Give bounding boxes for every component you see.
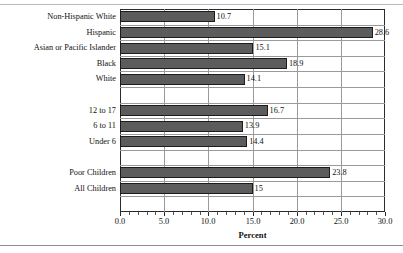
bar-value-label: 15.1 <box>253 40 270 56</box>
x-tick-minor <box>155 212 156 215</box>
bar-value-label: 10.7 <box>215 9 232 25</box>
x-tick-major <box>120 212 121 216</box>
x-tick-minor <box>261 212 262 215</box>
x-axis-title: Percent <box>120 230 385 240</box>
x-tick-major <box>164 212 165 216</box>
x-tick-minor <box>200 212 201 215</box>
x-tick-major <box>208 212 209 216</box>
bar-row-spacer <box>0 196 403 212</box>
category-label: Poor Children <box>0 165 116 181</box>
x-tick-label: 25.0 <box>321 217 361 226</box>
x-tick-label: 20.0 <box>277 217 317 226</box>
bar-row-spacer <box>0 87 403 103</box>
category-label: Non-Hispanic White <box>0 9 116 25</box>
category-label: 12 to 17 <box>0 103 116 119</box>
category-label: White <box>0 71 116 87</box>
bar-chart: Non-Hispanic White10.7Hispanic28.6Asian … <box>0 0 403 253</box>
x-tick-minor <box>376 212 377 215</box>
x-tick-minor <box>279 212 280 215</box>
bar <box>120 121 243 132</box>
x-tick-minor <box>138 212 139 215</box>
x-tick-major <box>297 212 298 216</box>
x-tick-minor <box>270 212 271 215</box>
category-label: Black <box>0 56 116 72</box>
category-label: Hispanic <box>0 25 116 41</box>
x-tick-minor <box>306 212 307 215</box>
bar <box>120 105 268 116</box>
x-tick-minor <box>288 212 289 215</box>
bar <box>120 58 287 69</box>
x-tick-label: 15.0 <box>233 217 273 226</box>
x-tick-minor <box>173 212 174 215</box>
bar-value-label: 28.6 <box>373 25 390 41</box>
bar-row: Under 614.4 <box>0 134 403 150</box>
bar <box>120 136 247 147</box>
x-tick-minor <box>129 212 130 215</box>
bar-row: 6 to 1113.9 <box>0 118 403 134</box>
bar-row-spacer <box>0 150 403 166</box>
bar-row: Hispanic28.6 <box>0 25 403 41</box>
category-label: Under 6 <box>0 134 116 150</box>
bar <box>120 27 373 38</box>
bar-value-label: 14.4 <box>247 134 264 150</box>
bar-row: 12 to 1716.7 <box>0 103 403 119</box>
x-tick-minor <box>350 212 351 215</box>
bar <box>120 43 253 54</box>
bar <box>120 183 253 194</box>
x-tick-major <box>253 212 254 216</box>
bar-row: Asian or Pacific Islander15.1 <box>0 40 403 56</box>
x-tick-label: 10.0 <box>188 217 228 226</box>
bar-value-label: 15 <box>253 181 263 197</box>
x-tick-minor <box>191 212 192 215</box>
bar-value-label: 14.1 <box>245 71 262 87</box>
x-tick-minor <box>235 212 236 215</box>
x-tick-label: 30.0 <box>365 217 403 226</box>
bar <box>120 74 245 85</box>
bar-row: Poor Children23.8 <box>0 165 403 181</box>
bar-value-label: 18.9 <box>287 56 304 72</box>
bar-value-label: 23.8 <box>330 165 347 181</box>
x-tick-minor <box>182 212 183 215</box>
x-tick-minor <box>244 212 245 215</box>
bar-value-label: 13.9 <box>243 118 260 134</box>
x-tick-label: 5.0 <box>144 217 184 226</box>
bar <box>120 167 330 178</box>
x-tick-major <box>341 212 342 216</box>
x-tick-minor <box>367 212 368 215</box>
x-tick-minor <box>147 212 148 215</box>
bar-row: All Children15 <box>0 181 403 197</box>
x-tick-minor <box>314 212 315 215</box>
bar-value-label: 16.7 <box>268 103 285 119</box>
category-label: All Children <box>0 181 116 197</box>
x-tick-minor <box>332 212 333 215</box>
bar-row: White14.1 <box>0 71 403 87</box>
x-tick-major <box>385 212 386 216</box>
x-tick-minor <box>323 212 324 215</box>
bar-row: Non-Hispanic White10.7 <box>0 9 403 25</box>
bar <box>120 11 215 22</box>
x-tick-minor <box>226 212 227 215</box>
bar-row: Black18.9 <box>0 56 403 72</box>
x-tick-minor <box>217 212 218 215</box>
category-label: Asian or Pacific Islander <box>0 40 116 56</box>
x-tick-minor <box>359 212 360 215</box>
x-tick-label: 0.0 <box>100 217 140 226</box>
category-label: 6 to 11 <box>0 118 116 134</box>
